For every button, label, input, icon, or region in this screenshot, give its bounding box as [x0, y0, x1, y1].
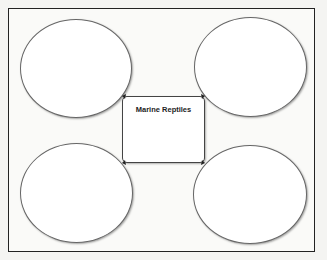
- connector-arrows: [0, 0, 327, 260]
